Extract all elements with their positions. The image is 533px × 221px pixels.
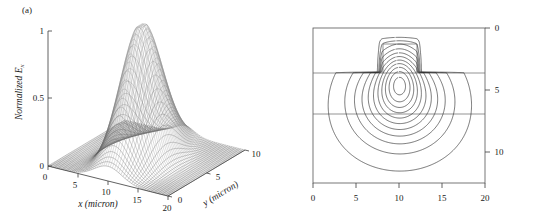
z-tick-05: 0.5 bbox=[33, 93, 45, 103]
y-tick-5: 5 bbox=[216, 172, 221, 182]
contour-frame bbox=[313, 28, 485, 183]
x-tick-20: 20 bbox=[163, 203, 173, 213]
b-x-tick-0: 0 bbox=[311, 193, 316, 203]
b-x-tick-10: 10 bbox=[395, 193, 405, 203]
b-x-tick-20: 20 bbox=[481, 193, 491, 203]
x-tick-15: 15 bbox=[133, 195, 143, 205]
figure-container: (a) 1 0.5 0 Normalized Ex bbox=[0, 0, 533, 221]
layer-interfaces bbox=[313, 73, 485, 114]
y-tick-10: 10 bbox=[252, 149, 262, 159]
svg-text:y (micron): y (micron) bbox=[200, 179, 240, 209]
panel-a-x-axis-title: x (micron) bbox=[77, 199, 117, 210]
rib-structure bbox=[383, 44, 417, 73]
b-x-tick-15: 15 bbox=[438, 193, 448, 203]
svg-text:Normalized Ex: Normalized Ex bbox=[14, 63, 26, 121]
panel-b-contour-plot: (b) bbox=[265, 0, 533, 221]
z-axis-title-sub: x bbox=[18, 63, 26, 68]
z-tick-0: 0 bbox=[40, 161, 45, 171]
b-x-tick-5: 5 bbox=[354, 193, 359, 203]
b-y-tick-10: 10 bbox=[495, 147, 505, 157]
surface-mesh bbox=[48, 24, 245, 196]
panel-a-z-axis-title: Normalized Ex bbox=[14, 63, 26, 121]
panel-a-y-axis-title: y (micron) bbox=[200, 179, 240, 209]
panel-b-x-axis: 0 5 10 15 20 bbox=[311, 183, 490, 203]
panel-a-surface-plot: (a) 1 0.5 0 Normalized Ex bbox=[0, 0, 268, 221]
b-y-tick-5: 5 bbox=[495, 85, 500, 95]
panel-b-y-axis: 0 5 10 bbox=[485, 23, 504, 157]
y-tick-0: 0 bbox=[178, 195, 183, 205]
panel-a-svg: 1 0.5 0 Normalized Ex bbox=[0, 0, 268, 221]
z-axis-title-main: Normalized E bbox=[14, 67, 24, 121]
contour-lines bbox=[328, 37, 471, 171]
x-tick-0: 0 bbox=[43, 172, 48, 182]
panel-a-z-axis: 1 0.5 0 bbox=[33, 26, 52, 171]
x-tick-5: 5 bbox=[73, 180, 78, 190]
b-y-tick-0: 0 bbox=[495, 23, 500, 33]
z-tick-1: 1 bbox=[40, 26, 45, 36]
x-tick-10: 10 bbox=[102, 187, 112, 197]
panel-a-label: (a) bbox=[22, 5, 32, 15]
panel-b-svg: 0 5 10 15 20 0 5 10 bbox=[265, 0, 533, 221]
